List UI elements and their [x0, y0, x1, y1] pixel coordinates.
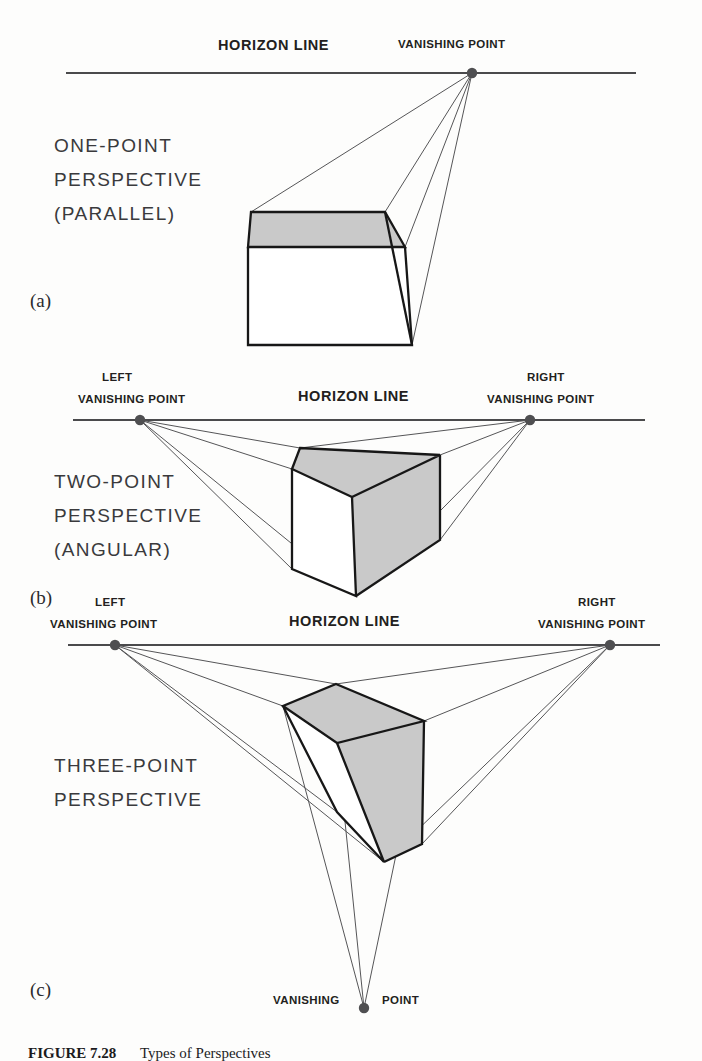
panel-two-point: LEFT VANISHING POINT HORIZON LINE RIGHT …	[30, 371, 645, 609]
panel-three-point: LEFT VANISHING POINT HORIZON LINE RIGHT …	[30, 596, 660, 1013]
figure-title: Types of Perspectives	[140, 1045, 271, 1061]
panel-c-right-label: RIGHT	[578, 596, 616, 608]
panel-c-bottom-vanishing-point-dot	[359, 1003, 369, 1013]
panel-c-title-line-1: THREE-POINT	[54, 755, 198, 776]
panel-c-left-label: LEFT	[95, 596, 125, 608]
panel-b-left-vp-label: VANISHING POINT	[78, 393, 185, 405]
panel-c-letter: (c)	[30, 979, 51, 1001]
panel-c-left-vp-label: VANISHING POINT	[50, 618, 157, 630]
panel-b-title-line-2: PERSPECTIVE	[54, 505, 202, 526]
panel-b-title-line-3: (ANGULAR)	[54, 539, 171, 560]
panel-b-left-vanishing-point-dot	[135, 415, 145, 425]
panel-b-right-vp-label: VANISHING POINT	[487, 393, 594, 405]
figure-page: HORIZON LINE VANISHING POINT ONE-POINT P…	[0, 0, 702, 1061]
panel-c-bottom-vanishing-label: VANISHING	[273, 994, 340, 1006]
panel-b-right-vanishing-point-dot	[525, 415, 535, 425]
panel-c-bottom-point-label: POINT	[382, 994, 419, 1006]
panel-b-letter: (b)	[30, 587, 52, 609]
figure-number: FIGURE 7.28	[28, 1045, 116, 1061]
panel-a-letter: (a)	[30, 290, 51, 312]
panel-a-box-top-face	[248, 212, 405, 247]
figure-caption: FIGURE 7.28 Types of Perspectives	[28, 1045, 271, 1061]
panel-a-box-front-face	[248, 247, 412, 345]
panel-a-horizon-label: HORIZON LINE	[218, 37, 329, 53]
panel-a-title-line-3: (PARALLEL)	[54, 203, 175, 224]
panel-b-horizon-label: HORIZON LINE	[298, 388, 409, 404]
panel-c-right-vp-label: VANISHING POINT	[538, 618, 645, 630]
panel-a-vanishing-point-label: VANISHING POINT	[398, 38, 505, 50]
perspective-diagram: HORIZON LINE VANISHING POINT ONE-POINT P…	[0, 0, 702, 1061]
panel-a-vanishing-point-dot	[467, 68, 477, 78]
panel-c-left-vanishing-point-dot	[110, 640, 120, 650]
panel-b-left-label: LEFT	[102, 371, 132, 383]
panel-c-title-line-2: PERSPECTIVE	[54, 789, 202, 810]
panel-a-title-line-2: PERSPECTIVE	[54, 169, 202, 190]
panel-c-right-vanishing-point-dot	[605, 640, 615, 650]
panel-b-right-label: RIGHT	[527, 371, 565, 383]
panel-one-point: HORIZON LINE VANISHING POINT ONE-POINT P…	[30, 37, 636, 345]
panel-a-title-line-1: ONE-POINT	[54, 135, 172, 156]
panel-b-title-line-1: TWO-POINT	[54, 471, 175, 492]
panel-c-horizon-label: HORIZON LINE	[289, 613, 400, 629]
